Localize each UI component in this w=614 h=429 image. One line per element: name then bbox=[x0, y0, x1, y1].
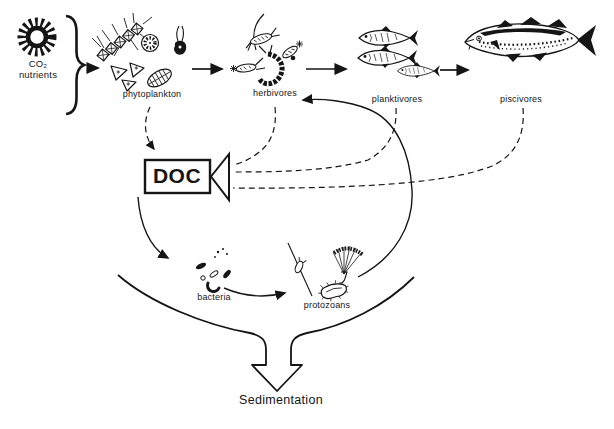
herbivores-illustration bbox=[230, 14, 303, 84]
herbivores-to-doc-dashed bbox=[233, 107, 275, 165]
microbial-loop-diagram: CO₂ nutrients phytoplankton herbivores p… bbox=[0, 0, 614, 429]
phytoplankton-to-doc-dashed bbox=[145, 107, 154, 149]
doc-to-bacteria-arrow bbox=[138, 197, 168, 258]
bacteria-illustration bbox=[195, 248, 232, 292]
bacteria-to-protozoans-arrow bbox=[224, 288, 285, 296]
inputs-label: CO₂ nutrients bbox=[19, 59, 57, 80]
piscivores-illustration bbox=[465, 17, 596, 62]
protozoans-illustration bbox=[288, 243, 363, 304]
sun-icon bbox=[22, 22, 52, 52]
phytoplankton-label: phytoplankton bbox=[123, 90, 182, 100]
sedimentation-funnel-arrow bbox=[118, 275, 414, 391]
herbivores-label: herbivores bbox=[253, 89, 297, 99]
planktivores-label: planktivores bbox=[372, 95, 422, 105]
protozoans-label: protozoans bbox=[304, 301, 351, 311]
doc-funnel-triangle bbox=[211, 154, 229, 200]
brace bbox=[66, 16, 84, 114]
doc-label: DOC bbox=[153, 164, 201, 187]
piscivores-label: piscivores bbox=[500, 95, 542, 105]
inputs-label-nutrients: nutrients bbox=[19, 70, 57, 81]
bacteria-label: bacteria bbox=[197, 293, 231, 303]
phytoplankton-illustration bbox=[92, 13, 186, 91]
piscivores-to-doc-dashed bbox=[233, 108, 523, 188]
sedimentation-label: Sedimentation bbox=[239, 394, 323, 408]
planktivores-to-doc-dashed bbox=[233, 108, 396, 172]
planktivores-illustration bbox=[358, 26, 440, 78]
microbial-loop-curves bbox=[138, 99, 412, 296]
diagram-line-art bbox=[0, 0, 614, 429]
